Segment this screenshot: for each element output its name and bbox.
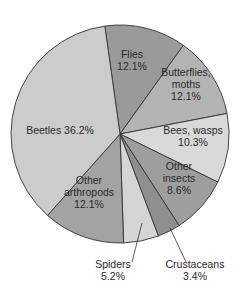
slice-label: Spiders5.2% <box>95 258 131 282</box>
slice-label: Flies12.1% <box>117 48 147 72</box>
slice-label: Beetles 36.2% <box>26 124 94 136</box>
pie-chart: Flies12.1%Butterflies,moths12.1%Bees, wa… <box>0 0 244 288</box>
callout-line <box>170 228 186 262</box>
slice-label: Otherinsects8.6% <box>163 160 196 196</box>
slice-label: Crustaceans3.4% <box>166 258 225 282</box>
